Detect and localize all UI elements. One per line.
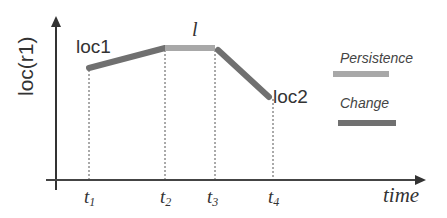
y-axis-arrow-icon — [51, 16, 61, 27]
tick-t2: t2 — [160, 186, 171, 210]
tick-t1: t1 — [84, 186, 95, 210]
plateau-label: l — [192, 18, 198, 41]
legend-change-label: Change — [340, 95, 389, 111]
loc1-label: loc1 — [76, 36, 111, 58]
x-axis-label: time — [383, 183, 419, 208]
tick-t3: t3 — [207, 186, 218, 210]
y-axis-label: loc(r1) — [14, 36, 38, 96]
change-segment-fall — [218, 50, 269, 97]
tick-t4: t4 — [268, 186, 279, 210]
legend-persistence-label: Persistence — [340, 50, 413, 66]
loc2-label: loc2 — [273, 86, 308, 108]
time-guides — [89, 50, 273, 180]
